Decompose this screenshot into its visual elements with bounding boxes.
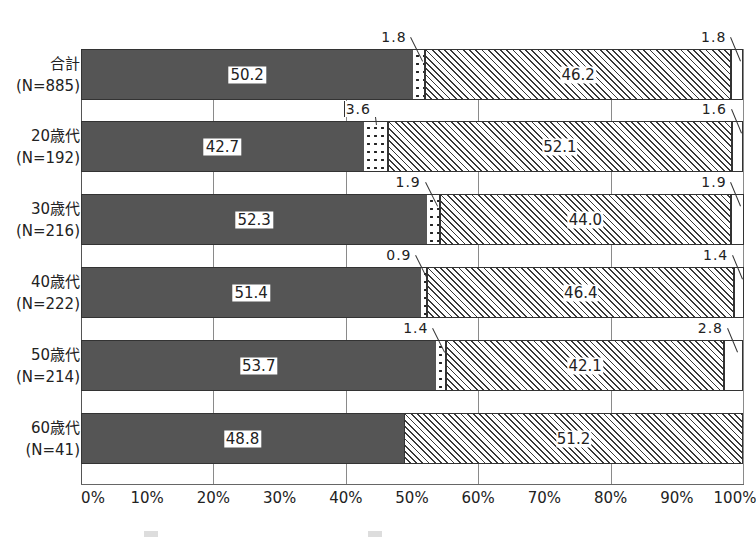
category-sample-size: (N=222) (16, 294, 80, 314)
bar-segment-white (732, 121, 743, 172)
x-tick-label: 40% (329, 489, 362, 507)
category-label: 50歳代 (31, 345, 80, 365)
bar-segment-white (734, 267, 743, 318)
x-axis-line (81, 484, 744, 485)
category-label: 40歳代 (31, 272, 80, 292)
value-label: 51.4 (232, 284, 269, 301)
value-label-small: 1.8 (701, 29, 726, 45)
value-label-small: 0.9 (386, 247, 411, 263)
value-label-small: 3.6 (344, 101, 371, 117)
stacked-bar: 53.742.1 (81, 340, 743, 391)
x-tick-label: 100% (714, 489, 756, 507)
value-label: 42.7 (204, 138, 241, 155)
value-label-small: 1.4 (703, 247, 728, 263)
category-sample-size: (N=214) (16, 367, 80, 387)
value-label: 42.1 (567, 357, 602, 374)
category-label: 30歳代 (31, 199, 80, 219)
value-label: 52.1 (542, 138, 577, 155)
legend-swatch-cut-off (144, 531, 158, 537)
bar-segment-dotted (427, 194, 440, 245)
value-label: 48.8 (224, 430, 261, 447)
x-tick-label: 90% (660, 489, 693, 507)
value-label: 52.3 (235, 211, 272, 228)
category-label: 60歳代 (31, 418, 80, 438)
bar-segment-white (731, 49, 743, 100)
value-label: 46.4 (563, 284, 598, 301)
x-tick-label: 0% (81, 489, 105, 507)
value-label-small: 2.8 (698, 320, 723, 336)
x-tick-label: 30% (263, 489, 296, 507)
value-label-small: 1.8 (381, 29, 406, 45)
value-label: 53.7 (240, 357, 277, 374)
x-tick-label: 10% (131, 489, 164, 507)
value-label: 44.0 (568, 211, 603, 228)
x-tick-label: 60% (462, 489, 495, 507)
value-label-small: 1.6 (702, 101, 727, 117)
value-label: 51.2 (556, 430, 591, 447)
value-label: 46.2 (560, 66, 595, 83)
x-tick-label: 70% (528, 489, 561, 507)
category-sample-size: (N=216) (16, 221, 80, 241)
value-label-small: 1.9 (701, 174, 726, 190)
x-tick-label: 80% (594, 489, 627, 507)
category-sample-size: (N=192) (16, 148, 80, 168)
category-sample-size: (N=885) (16, 76, 80, 96)
category-label: 20歳代 (31, 126, 80, 146)
bar-segment-white (724, 340, 743, 391)
bar-segment-dotted (364, 121, 388, 172)
legend-swatch-cut-off (368, 531, 382, 537)
category-sample-size: (N=41) (25, 440, 80, 460)
value-label-small: 1.4 (403, 320, 428, 336)
stacked-bar: 48.851.2 (81, 413, 743, 464)
x-tick-label: 20% (197, 489, 230, 507)
stacked-bar: 51.446.4 (81, 267, 743, 318)
leader-line (375, 117, 377, 125)
category-label: 合計 (50, 54, 80, 74)
value-label-small: 1.9 (396, 174, 421, 190)
stacked-bar: 42.752.1 (81, 121, 743, 172)
x-tick-label: 50% (395, 489, 428, 507)
stacked-bar: 50.246.2 (81, 49, 743, 100)
stacked-bar: 52.344.0 (81, 194, 743, 245)
value-label: 50.2 (228, 66, 265, 83)
